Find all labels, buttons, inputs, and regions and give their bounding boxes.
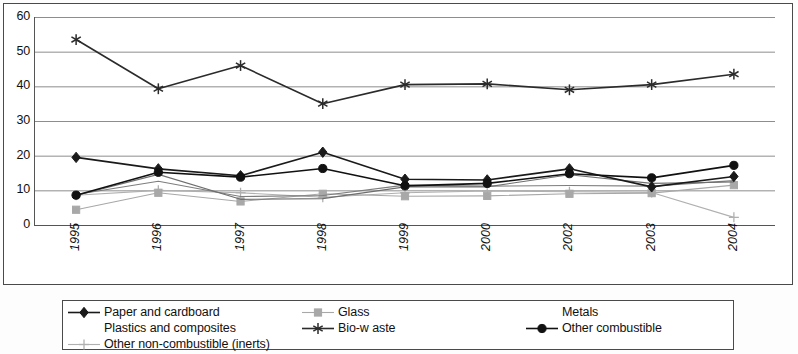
legend-entry[interactable]: Other combustible (525, 320, 662, 336)
marker-square (566, 190, 573, 197)
legend-label: Plastics and composites (104, 322, 236, 335)
marker-circle (538, 324, 546, 332)
marker-plus (79, 340, 89, 350)
legend-label: Bio-w aste (338, 322, 395, 335)
marker-circle (319, 164, 327, 172)
legend-entry[interactable]: Plastics and composites (67, 320, 236, 336)
marker-asterisk (71, 34, 80, 45)
x-axis-tick-label: 1998 (315, 209, 329, 265)
y-axis-tick-labels: 6050403020100 (4, 17, 30, 225)
legend-label: Metals (562, 306, 598, 319)
legend-marker-circle-icon (525, 321, 559, 335)
plot-svg (35, 17, 775, 225)
marker-diamond (730, 171, 738, 181)
marker-circle (483, 179, 491, 187)
legend-entry[interactable]: Other non-combustible (inerts) (67, 336, 270, 352)
legend-entry[interactable]: Metals (525, 304, 598, 320)
series-line (76, 40, 734, 104)
legend-label: Other non-combustible (inerts) (104, 338, 270, 351)
x-axis-tick-label: 2002 (561, 209, 575, 265)
marker-asterisk (236, 60, 245, 71)
legend-marker-diamond-icon (67, 305, 101, 319)
legend-label: Glass (338, 306, 369, 319)
plot-area (34, 17, 775, 226)
x-axis-tick-label: 1995 (68, 209, 82, 265)
legend-marker-square-icon (301, 305, 335, 319)
marker-circle (565, 170, 573, 178)
legend-marker-none-icon (525, 305, 559, 319)
chart-frame: 6050403020100 19951996199719981999200020… (3, 3, 793, 285)
marker-square (730, 182, 737, 189)
legend-marker-asterisk-icon (301, 321, 335, 335)
marker-square (314, 309, 321, 316)
marker-circle (730, 161, 738, 169)
y-axis-tick-30: 30 (6, 114, 30, 126)
legend-entry[interactable]: Glass (301, 304, 369, 320)
marker-square (319, 190, 326, 197)
marker-square (484, 192, 491, 199)
y-axis-tick-0: 0 (6, 218, 30, 230)
x-axis-tick-label: 1999 (397, 209, 411, 265)
marker-square (155, 189, 162, 196)
y-axis-tick-40: 40 (6, 79, 30, 91)
legend-marker-plus-icon (67, 337, 101, 351)
marker-circle (154, 168, 162, 176)
y-axis-tick-20: 20 (6, 149, 30, 161)
legend-entry[interactable]: Paper and cardboard (67, 304, 220, 320)
x-axis-tick-label: 2003 (644, 209, 658, 265)
chart-figure: 6050403020100 19951996199719981999200020… (0, 0, 798, 354)
y-axis-tick-50: 50 (6, 45, 30, 57)
chart-legend: Paper and cardboardGlassMetalsPlastics a… (62, 300, 734, 350)
x-axis-tick-label: 1997 (233, 209, 247, 265)
marker-diamond (80, 307, 88, 317)
marker-asterisk (154, 83, 163, 94)
x-axis-tick-labels: 199519961997199819992000200220032004 (34, 226, 774, 284)
x-axis-tick-label: 1996 (150, 209, 164, 265)
marker-circle (72, 191, 80, 199)
marker-diamond (72, 152, 80, 162)
legend-entry[interactable]: Bio-w aste (301, 320, 395, 336)
legend-label: Other combustible (562, 322, 662, 335)
x-axis-tick-label: 2000 (479, 209, 493, 265)
series-4 (71, 34, 738, 109)
marker-circle (401, 182, 409, 190)
marker-circle (648, 174, 656, 182)
y-axis-tick-60: 60 (6, 10, 30, 22)
y-axis-tick-10: 10 (6, 183, 30, 195)
marker-square (401, 193, 408, 200)
x-axis-tick-label: 2004 (726, 209, 740, 265)
marker-circle (236, 173, 244, 181)
legend-marker-none-icon (67, 321, 101, 335)
legend-label: Paper and cardboard (104, 306, 220, 319)
